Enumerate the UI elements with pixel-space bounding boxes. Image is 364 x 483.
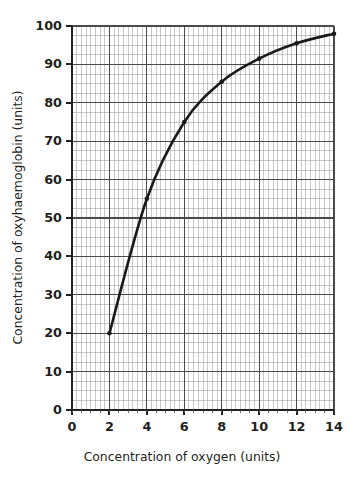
y-tick-label: 80 xyxy=(28,95,62,110)
data-point-marker xyxy=(145,197,150,202)
axis-tick-marks xyxy=(66,26,334,415)
x-tick-label: 8 xyxy=(207,419,237,434)
data-point-marker xyxy=(257,56,262,61)
x-tick-label: 12 xyxy=(282,419,312,434)
y-tick-label: 70 xyxy=(28,133,62,148)
data-point-marker xyxy=(182,120,187,125)
x-tick-label: 10 xyxy=(244,419,274,434)
data-point-marker xyxy=(107,331,112,336)
y-tick-label: 60 xyxy=(28,172,62,187)
x-tick-label: 2 xyxy=(94,419,124,434)
data-point-marker xyxy=(219,79,224,84)
y-tick-label: 50 xyxy=(28,210,62,225)
y-tick-label: 10 xyxy=(28,364,62,379)
y-tick-label: 20 xyxy=(28,325,62,340)
data-point-marker xyxy=(294,41,299,46)
x-tick-label: 6 xyxy=(169,419,199,434)
y-axis-title: Concentration of oxyhaemoglobin (units) xyxy=(8,0,28,435)
x-tick-label: 14 xyxy=(319,419,349,434)
y-tick-label: 0 xyxy=(28,402,62,417)
x-tick-label: 0 xyxy=(57,419,87,434)
chart-figure: Concentration of oxyhaemoglobin (units) … xyxy=(0,0,364,483)
x-tick-label: 4 xyxy=(132,419,162,434)
y-tick-label: 30 xyxy=(28,287,62,302)
data-point-marker xyxy=(332,31,337,36)
x-axis-title: Concentration of oxygen (units) xyxy=(0,449,364,464)
y-tick-label: 100 xyxy=(28,18,62,33)
y-axis-title-wrap: Concentration of oxyhaemoglobin (units) xyxy=(8,0,28,435)
y-tick-label: 90 xyxy=(28,56,62,71)
y-tick-label: 40 xyxy=(28,248,62,263)
